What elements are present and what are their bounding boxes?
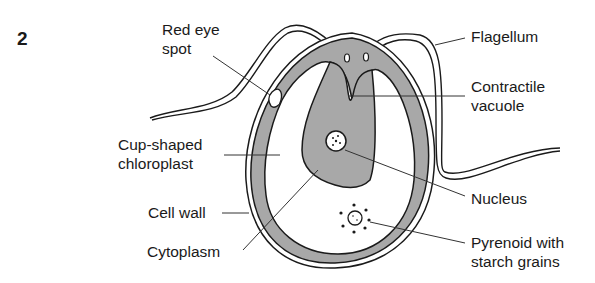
basal-body-left [345,54,350,62]
label-cytoplasm: Cytoplasm [147,242,220,261]
pyrenoid [348,211,362,225]
label-pyrenoid: Pyrenoid with starch grains [471,233,564,271]
label-flagellum: Flagellum [471,27,538,46]
label-contractile-vacuole: Contractile vacuole [471,77,545,115]
basal-body-right [364,53,369,61]
label-nucleus: Nucleus [471,189,527,208]
label-cup-shaped-chloroplast: Cup-shaped chloroplast [118,135,202,173]
label-red-eye-spot: Red eye spot [162,20,220,58]
label-cell-wall: Cell wall [148,203,206,222]
